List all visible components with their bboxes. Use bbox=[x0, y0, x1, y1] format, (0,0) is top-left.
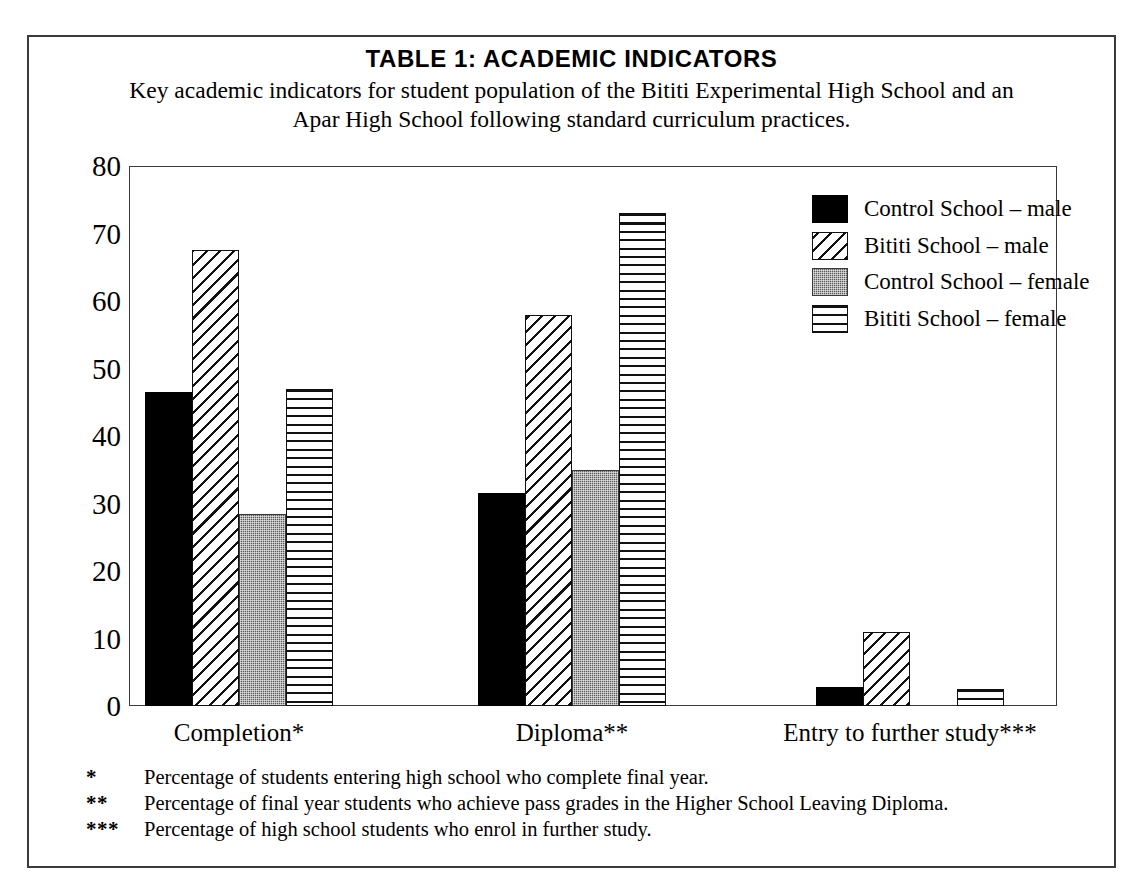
legend-swatch-icon bbox=[812, 232, 848, 260]
legend-item-label: Bititi School – male bbox=[864, 232, 1049, 260]
legend-item-label: Control School – female bbox=[864, 268, 1090, 296]
footnote-text: Percentage of final year students who ac… bbox=[144, 790, 948, 816]
footnote-marker: ** bbox=[86, 790, 144, 816]
footnote-row: *Percentage of students entering high sc… bbox=[86, 764, 1096, 790]
footnote-row: ***Percentage of high school students wh… bbox=[86, 816, 1096, 842]
footnote-marker: *** bbox=[86, 816, 144, 842]
x-axis-tick-label: Entry to further study*** bbox=[710, 716, 1110, 750]
chart-title: TABLE 1: ACADEMIC INDICATORS bbox=[27, 44, 1116, 74]
y-axis-tick-label: 10 bbox=[49, 624, 121, 654]
legend-item: Bititi School – female bbox=[812, 301, 1062, 338]
chart-legend: Control School – maleBititi School – mal… bbox=[812, 191, 1062, 337]
legend-swatch-icon bbox=[812, 268, 848, 296]
bar-group bbox=[145, 166, 333, 706]
bar bbox=[478, 493, 525, 706]
bar bbox=[192, 250, 239, 706]
bar bbox=[572, 470, 619, 706]
legend-swatch-icon bbox=[812, 305, 848, 333]
bar bbox=[619, 213, 666, 706]
legend-item-label: Bititi School – female bbox=[864, 305, 1067, 333]
y-axis-tick-label: 40 bbox=[49, 421, 121, 451]
y-axis-tick-label: 30 bbox=[49, 489, 121, 519]
y-axis-tick-label: 60 bbox=[49, 286, 121, 316]
bar bbox=[145, 392, 192, 706]
y-axis: 80706050403020100 bbox=[49, 150, 121, 722]
y-axis-tick-label: 80 bbox=[49, 151, 121, 181]
footnote-text: Percentage of high school students who e… bbox=[144, 816, 652, 842]
footnote-marker: * bbox=[86, 764, 144, 790]
chart-subtitle: Key academic indicators for student popu… bbox=[27, 74, 1116, 134]
bar bbox=[863, 632, 910, 706]
bar bbox=[816, 687, 863, 706]
bar bbox=[286, 389, 333, 706]
bar bbox=[525, 315, 572, 707]
y-axis-tick-label: 70 bbox=[49, 219, 121, 249]
legend-item: Bititi School – male bbox=[812, 228, 1062, 265]
chart-figure: TABLE 1: ACADEMIC INDICATORS Key academi… bbox=[0, 0, 1148, 893]
y-axis-tick-label: 50 bbox=[49, 354, 121, 384]
legend-swatch-icon bbox=[812, 195, 848, 223]
legend-item-label: Control School – male bbox=[864, 195, 1072, 223]
bar bbox=[957, 689, 1004, 706]
footnote-row: **Percentage of final year students who … bbox=[86, 790, 1096, 816]
legend-item: Control School – male bbox=[812, 191, 1062, 228]
y-axis-tick-label: 20 bbox=[49, 556, 121, 586]
footnotes: *Percentage of students entering high sc… bbox=[86, 764, 1096, 842]
x-axis: Completion*Diploma**Entry to further stu… bbox=[129, 716, 1129, 756]
chart-header: TABLE 1: ACADEMIC INDICATORS Key academi… bbox=[27, 44, 1116, 134]
legend-item: Control School – female bbox=[812, 264, 1062, 301]
footnote-text: Percentage of students entering high sch… bbox=[144, 764, 709, 790]
bar-group bbox=[478, 166, 666, 706]
bar bbox=[239, 514, 286, 706]
